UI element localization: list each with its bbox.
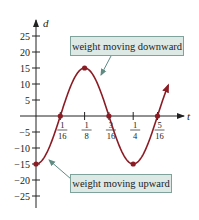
y-tick-label: 15 bbox=[20, 63, 30, 74]
y-axis-label: d bbox=[43, 17, 49, 29]
x-tick-denominator: 16 bbox=[58, 131, 67, 141]
data-point bbox=[155, 113, 160, 118]
annotation-text: weight moving downward bbox=[72, 41, 182, 52]
data-point bbox=[131, 161, 136, 166]
data-point bbox=[58, 113, 63, 118]
data-point bbox=[82, 65, 87, 70]
y-tick-label: −25 bbox=[14, 191, 30, 202]
x-tick-denominator: 16 bbox=[155, 131, 164, 141]
y-tick-label: 25 bbox=[20, 31, 30, 42]
x-tick-numerator: 1 bbox=[133, 120, 137, 130]
x-axis-label: t bbox=[187, 110, 191, 122]
annotation-text: weight moving upward bbox=[72, 178, 169, 189]
annotation-weight-moving-upward: weight moving upward bbox=[70, 174, 172, 193]
y-tick-label: −20 bbox=[14, 175, 30, 186]
data-point bbox=[106, 113, 111, 118]
y-tick-label: 5 bbox=[25, 95, 30, 106]
y-tick-label: −15 bbox=[14, 159, 30, 170]
y-tick-label: −5 bbox=[19, 127, 30, 138]
x-tick-denominator: 4 bbox=[133, 131, 138, 141]
y-tick-label: −10 bbox=[14, 143, 30, 154]
pointer-arrow-upward bbox=[49, 160, 71, 179]
x-tick-numerator: 1 bbox=[84, 120, 88, 130]
pointer-arrow-downward bbox=[101, 56, 111, 75]
y-tick-label: 10 bbox=[20, 79, 30, 90]
annotation-weight-moving-downward: weight moving downward bbox=[70, 36, 184, 56]
data-point bbox=[33, 161, 38, 166]
y-tick-label: 20 bbox=[20, 47, 30, 58]
x-tick-numerator: 1 bbox=[60, 120, 64, 130]
x-tick-denominator: 8 bbox=[84, 131, 88, 141]
x-tick-numerator: 5 bbox=[157, 120, 161, 130]
